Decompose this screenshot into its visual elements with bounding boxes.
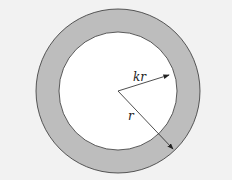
inner-radius-label: kr [133, 70, 147, 84]
diagram-canvas: kr r [0, 0, 232, 180]
annulus-diagram: kr r [0, 0, 232, 180]
